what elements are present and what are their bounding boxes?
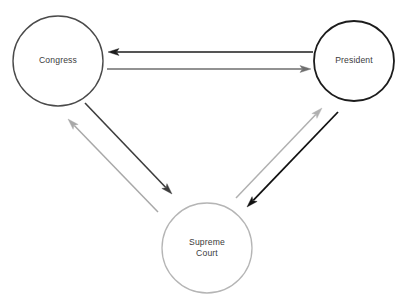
node-supreme_court[interactable]: SupremeCourt (162, 203, 252, 293)
node-label-line: President (335, 55, 373, 65)
edge-shaft-supreme-court-to-congress (74, 125, 158, 212)
edge-president-to-congress (108, 49, 313, 56)
node-label-line: Supreme (189, 237, 225, 247)
diagram-canvas: CongressPresidentSupremeCourt (0, 0, 408, 302)
node-label-congress: Congress (39, 55, 77, 65)
edge-congress-to-president (107, 66, 311, 73)
edges-group (68, 49, 338, 213)
node-president[interactable]: President (314, 21, 394, 101)
edge-supreme-court-to-president (236, 108, 322, 198)
node-congress[interactable]: Congress (13, 16, 103, 106)
edge-congress-to-supreme-court (85, 103, 172, 194)
checks-and-balances-diagram: CongressPresidentSupremeCourt (0, 0, 408, 302)
edge-shaft-president-to-supreme-court (253, 112, 338, 200)
node-label-president: President (335, 55, 373, 65)
node-label-line: Congress (39, 55, 77, 65)
nodes-group: CongressPresidentSupremeCourt (13, 16, 394, 293)
edge-shaft-supreme-court-to-president (236, 115, 316, 198)
edge-shaft-congress-to-supreme-court (85, 103, 166, 187)
node-label-line: Court (196, 248, 218, 258)
edge-president-to-supreme-court (247, 112, 338, 207)
